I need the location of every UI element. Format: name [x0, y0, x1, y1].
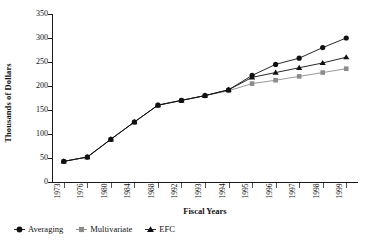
x-axis-title: Fiscal Years — [52, 206, 358, 216]
triangle-marker-icon — [343, 54, 349, 59]
y-tick-label: 350 — [18, 10, 48, 18]
square-marker-icon — [320, 70, 325, 75]
x-tick-label-text: 1995 — [235, 180, 257, 202]
y-tick-label: 300 — [18, 34, 48, 42]
chart-legend: AveragingMultivariateEFC — [14, 224, 175, 235]
circle-marker-icon — [155, 103, 160, 108]
x-tick-label-text: 1992 — [164, 180, 186, 202]
square-marker-icon — [344, 66, 349, 71]
x-tick-label-text: 1996 — [259, 180, 281, 202]
x-tick-label-text: 1973 — [47, 180, 69, 202]
circle-marker-icon — [344, 35, 349, 40]
y-tick-label: 250 — [18, 58, 48, 66]
x-tick-label: 1992 — [176, 186, 186, 208]
y-tick-label: 150 — [18, 106, 48, 114]
y-tick-label: 0 — [18, 178, 48, 186]
square-marker-icon — [250, 81, 255, 86]
x-tick-label: 1973 — [59, 186, 69, 208]
x-tick-label-text: 1984 — [117, 180, 139, 202]
circle-marker-icon — [85, 154, 90, 159]
circle-marker-icon — [179, 98, 184, 103]
x-tick-label-text: 1998 — [306, 180, 328, 202]
circle-marker-icon — [202, 93, 207, 98]
legend-entry-efc[interactable]: EFC — [145, 224, 175, 235]
circle-marker-icon — [226, 87, 231, 92]
y-axis-tick-labels: 050100150200250300350 — [18, 0, 48, 247]
triangle-marker-icon — [147, 226, 154, 232]
series-multivariate — [61, 66, 348, 163]
x-tick-label-text: 1994 — [212, 180, 234, 202]
triangle-marker-icon — [145, 224, 156, 235]
legend-label: Multivariate — [90, 225, 132, 234]
square-marker-icon — [297, 74, 302, 79]
y-tick-mark — [48, 62, 53, 63]
y-tick-mark — [48, 110, 53, 111]
legend-label: EFC — [159, 225, 175, 234]
plot-area — [52, 14, 358, 182]
x-tick-label: 1976 — [82, 186, 92, 208]
x-tick-label-text: 1976 — [70, 180, 92, 202]
x-tick-label: 1993 — [200, 186, 210, 208]
series-averaging — [61, 35, 349, 164]
x-tick-label-text: 1993 — [188, 180, 210, 202]
line-chart-figure: Thousands of Dollars 0501001502002503003… — [0, 0, 368, 247]
legend-entry-multivariate[interactable]: Multivariate — [76, 224, 132, 235]
x-tick-label: 1980 — [106, 186, 116, 208]
circle-marker-icon — [249, 73, 254, 78]
series-line — [64, 38, 346, 161]
x-tick-label: 1988 — [153, 186, 163, 208]
x-tick-label: 1996 — [271, 186, 281, 208]
y-tick-label: 100 — [18, 130, 48, 138]
circle-marker-icon — [132, 119, 137, 124]
square-marker-icon — [79, 227, 84, 232]
series-layer — [52, 14, 358, 183]
circle-marker-icon — [273, 62, 278, 67]
y-tick-mark — [48, 158, 53, 159]
circle-marker-icon — [297, 56, 302, 61]
y-tick-mark — [48, 134, 53, 135]
x-tick-label: 1999 — [341, 186, 351, 208]
y-tick-label: 200 — [18, 82, 48, 90]
series-line — [64, 57, 346, 161]
y-tick-mark — [48, 86, 53, 87]
x-axis-tick-labels: 1973197619801984198819921993199419951996… — [52, 186, 358, 208]
circle-marker-icon — [61, 159, 66, 164]
y-axis-title-text: Thousands of Dollars — [3, 63, 13, 142]
x-tick-label-text: 1997 — [282, 180, 304, 202]
y-axis-title: Thousands of Dollars — [0, 28, 16, 178]
circle-marker-icon — [320, 45, 325, 50]
square-marker-icon — [273, 78, 278, 83]
y-tick-mark — [48, 38, 53, 39]
series-line — [64, 69, 346, 162]
x-tick-label: 1994 — [224, 186, 234, 208]
y-tick-mark — [48, 14, 53, 15]
x-tick-label-text: 1999 — [329, 180, 351, 202]
circle-marker-icon — [108, 137, 113, 142]
x-tick-label: 1997 — [294, 186, 304, 208]
circle-marker-icon — [17, 227, 23, 233]
circle-marker-icon — [14, 224, 25, 235]
legend-label: Averaging — [28, 225, 63, 234]
x-tick-label: 1984 — [129, 186, 139, 208]
series-efc — [61, 54, 350, 163]
y-tick-label: 50 — [18, 154, 48, 162]
x-tick-label-text: 1980 — [94, 180, 116, 202]
x-tick-label: 1998 — [318, 186, 328, 208]
x-tick-label: 1995 — [247, 186, 257, 208]
x-tick-label-text: 1988 — [141, 180, 163, 202]
legend-entry-averaging[interactable]: Averaging — [14, 224, 63, 235]
square-marker-icon — [76, 224, 87, 235]
